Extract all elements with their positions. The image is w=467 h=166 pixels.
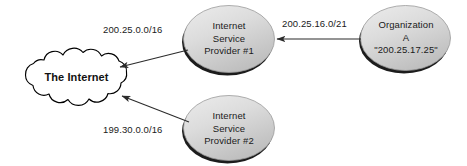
edge-label-isp2-to-internet: 199.30.0.0/16 xyxy=(103,124,162,136)
edge-isp2-line xyxy=(122,96,189,122)
edge-isp1-to-internet xyxy=(120,50,188,67)
node-isp2[interactable] xyxy=(182,96,275,164)
network-diagram: The Internet Internet Service Provider #… xyxy=(0,0,467,166)
node-org-a[interactable] xyxy=(359,6,451,74)
edge-isp1-line xyxy=(120,50,188,67)
node-isp1[interactable] xyxy=(182,6,275,76)
edge-label-org-a-to-isp1: 200.25.16.0/21 xyxy=(282,18,347,30)
edge-label-isp1-to-internet: 200.25.0.0/16 xyxy=(103,24,162,36)
isp1-ellipse xyxy=(184,6,275,73)
cloud-label: The Internet xyxy=(26,71,127,84)
org-a-ellipse xyxy=(361,6,451,71)
isp2-ellipse xyxy=(184,96,275,161)
edge-isp2-to-internet xyxy=(122,96,189,122)
